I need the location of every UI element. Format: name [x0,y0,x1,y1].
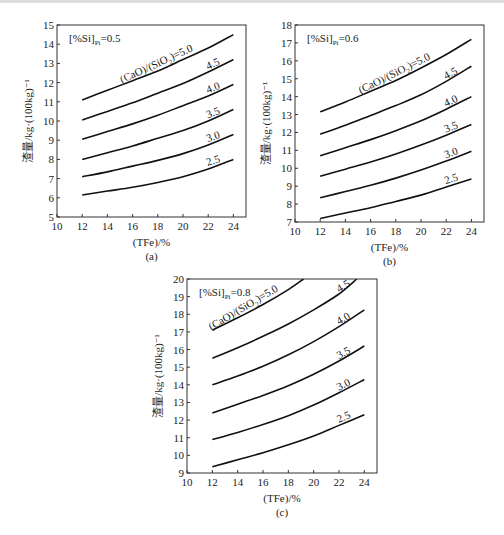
curve-label: 3.0 [204,128,221,144]
x-axis-label: (TFe)/% [133,236,170,249]
curve-label: 3.5 [334,344,352,361]
chart-canvas: 101214161820222456789101112131415(TFe)/%… [0,0,504,535]
curve-label: 4.0 [204,79,222,95]
y-axis-label: 渣量/kg·(100kg)⁻¹ [259,82,273,166]
plot-frame [57,25,246,217]
curve-label: 3.5 [442,118,460,134]
y-tick-label: 13 [281,109,293,121]
si-annotation: [%Si]Pi=0.6 [307,32,359,47]
y-tick-label: 20 [173,273,185,285]
x-tick-label: 22 [334,476,345,488]
y-tick-label: 10 [43,115,55,127]
x-tick-label: 18 [390,225,402,237]
x-tick-label: 24 [466,225,478,237]
curve-label: 4.0 [334,309,352,327]
y-tick-label: 5 [49,211,55,223]
y-tick-label: 10 [173,449,185,461]
chart-a: 101214161820222456789101112131415(TFe)/%… [21,19,246,263]
x-tick-label: 18 [283,476,295,488]
y-axis-label: 渣量/kg·(100kg)⁻¹ [21,79,35,163]
y-tick-label: 19 [173,291,185,303]
x-tick-label: 14 [102,220,114,232]
y-tick-label: 13 [43,57,55,69]
y-tick-label: 7 [49,173,55,185]
y-tick-label: 16 [173,344,185,356]
y-tick-label: 14 [281,91,293,103]
x-tick-label: 20 [308,476,320,488]
y-tick-label: 12 [281,126,292,138]
y-tick-label: 13 [173,396,185,408]
y-tick-label: 8 [49,153,55,165]
y-tick-label: 15 [43,19,55,31]
x-tick-label: 22 [203,220,214,232]
y-tick-label: 9 [49,134,55,146]
x-axis-label: (TFe)/% [263,492,300,505]
chart-caption: (a) [145,250,158,263]
y-tick-label: 11 [281,144,292,156]
y-tick-label: 15 [281,73,293,85]
y-tick-label: 12 [173,414,184,426]
curve-label: 2.5 [335,408,353,425]
y-tick-label: 14 [43,38,55,50]
x-axis-label: (TFe)/% [371,241,408,254]
y-tick-label: 11 [43,96,54,108]
x-tick-label: 16 [258,476,270,488]
x-tick-label: 12 [207,476,218,488]
x-tick-label: 22 [441,225,452,237]
y-tick-label: 17 [173,326,185,338]
y-tick-label: 11 [173,432,184,444]
x-tick-label: 18 [152,220,164,232]
y-tick-label: 14 [173,379,185,391]
curve-label: 4.5 [204,55,222,72]
y-tick-label: 17 [281,37,293,49]
y-tick-label: 8 [287,198,293,210]
chart-caption: (b) [383,255,396,268]
x-tick-label: 16 [127,220,139,232]
x-tick-label: 14 [232,476,244,488]
curve-label: 4.5 [441,64,459,81]
si-annotation: [%Si]Pi=0.5 [69,32,121,47]
y-tick-label: 18 [281,19,293,31]
curve-label: (CaO)/(SiO2)=5.0 [356,50,433,99]
x-tick-label: 24 [228,220,240,232]
y-tick-label: 9 [287,180,293,192]
curve-label: 3.5 [204,104,222,120]
x-tick-label: 12 [315,225,326,237]
plot-frame [187,279,377,473]
chart-b: 1012141618202224789101112131415161718(TF… [259,19,484,268]
y-tick-label: 16 [281,55,293,67]
y-tick-label: 9 [179,467,185,479]
curve-label: 4.0 [442,92,460,109]
curve-label: 3.0 [334,376,352,393]
si-annotation: [%Si]Pi=0.8 [199,286,251,301]
chart-c: 101214161820222491011121314151617181920(… [151,273,377,519]
y-tick-label: 6 [49,192,55,204]
chart-caption: (c) [276,506,289,519]
y-tick-label: 18 [173,308,185,320]
x-tick-label: 12 [77,220,88,232]
y-tick-label: 12 [43,77,54,89]
x-tick-label: 20 [416,225,428,237]
x-tick-label: 20 [178,220,190,232]
curve-label: (CaO)/(SiO2)=5.0 [118,41,196,87]
y-tick-label: 7 [287,216,293,228]
curve-label: 3.0 [442,144,459,160]
x-tick-label: 16 [365,225,377,237]
y-axis-label: 渣量/kg·(100kg)⁻¹ [151,334,165,418]
y-tick-label: 15 [173,361,185,373]
x-tick-label: 24 [359,476,371,488]
y-tick-label: 10 [281,162,293,174]
x-tick-label: 14 [340,225,352,237]
